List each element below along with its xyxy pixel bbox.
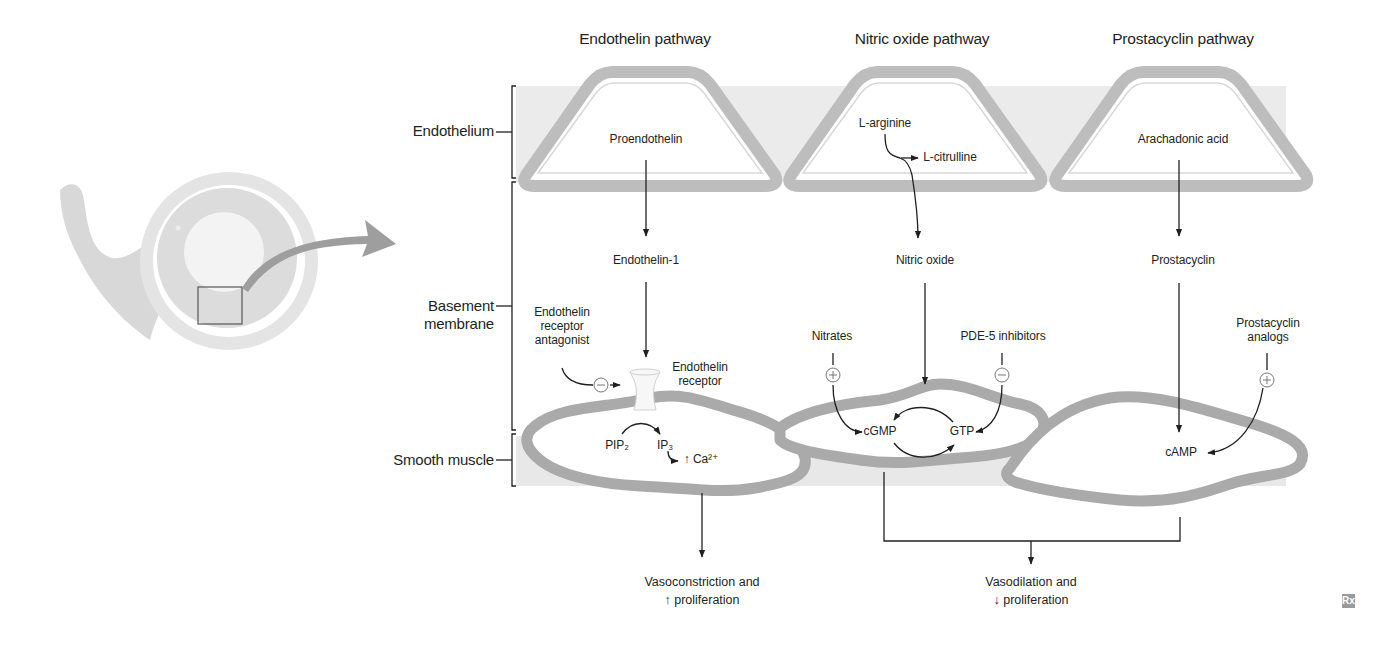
prostacyclin-label: Prostacyclin — [1151, 254, 1215, 268]
calcium-increase-label: ↑ Ca²⁺ — [684, 453, 718, 467]
header-endothelin-pathway: Endothelin pathway — [579, 30, 711, 48]
vasodilation-outcome-label: Vasodilation and ↓ proliferation — [985, 573, 1077, 609]
arachidonic-acid-label: Arachadonic acid — [1138, 133, 1228, 147]
cgmp-label: cGMP — [864, 425, 897, 439]
header-nitric-oxide-pathway: Nitric oxide pathway — [855, 30, 990, 48]
layer-label-endothelium: Endothelium — [413, 122, 494, 139]
ip3-label: IP₃ — [657, 439, 673, 453]
pde5-inhibitors-label: PDE-5 inhibitors — [960, 330, 1045, 344]
endothelin-receptor-label: Endothelin receptor — [672, 361, 728, 389]
pulmonary-hypertension-pathways-diagram: Endothelin pathway Nitric oxide pathway … — [0, 0, 1382, 649]
endothelial-cells — [524, 72, 1307, 186]
smooth-muscle-cell-2 — [780, 384, 1044, 463]
pip2-label: PIP₂ — [605, 439, 629, 453]
layer-brackets — [496, 86, 516, 486]
prostacyclin-analogs-label: Prostacyclin analogs — [1236, 317, 1300, 345]
header-prostacyclin-pathway: Prostacyclin pathway — [1112, 30, 1254, 48]
nitric-oxide-label: Nitric oxide — [896, 254, 954, 268]
camp-label: cAMP — [1165, 446, 1197, 460]
l-citrulline-label: L-citrulline — [923, 151, 977, 165]
nitrates-label: Nitrates — [812, 330, 853, 344]
layer-label-basement-membrane: Basement membrane — [424, 297, 494, 333]
l-arginine-label: L-arginine — [859, 117, 911, 131]
gtp-label: GTP — [950, 425, 974, 439]
endothelin-1-label: Endothelin-1 — [613, 254, 679, 268]
vessel-cross-section-icon — [60, 172, 396, 350]
proendothelin-label: Proendothelin — [610, 133, 683, 147]
diagram-graphics — [0, 0, 1382, 649]
vasoconstriction-outcome-label: Vasoconstriction and ↑ proliferation — [644, 573, 759, 609]
layer-label-smooth-muscle: Smooth muscle — [393, 451, 494, 468]
endothelin-receptor-antagonist-label: Endothelin receptor antagonist — [534, 306, 590, 347]
rx-logo-icon: Rx — [1342, 594, 1355, 608]
